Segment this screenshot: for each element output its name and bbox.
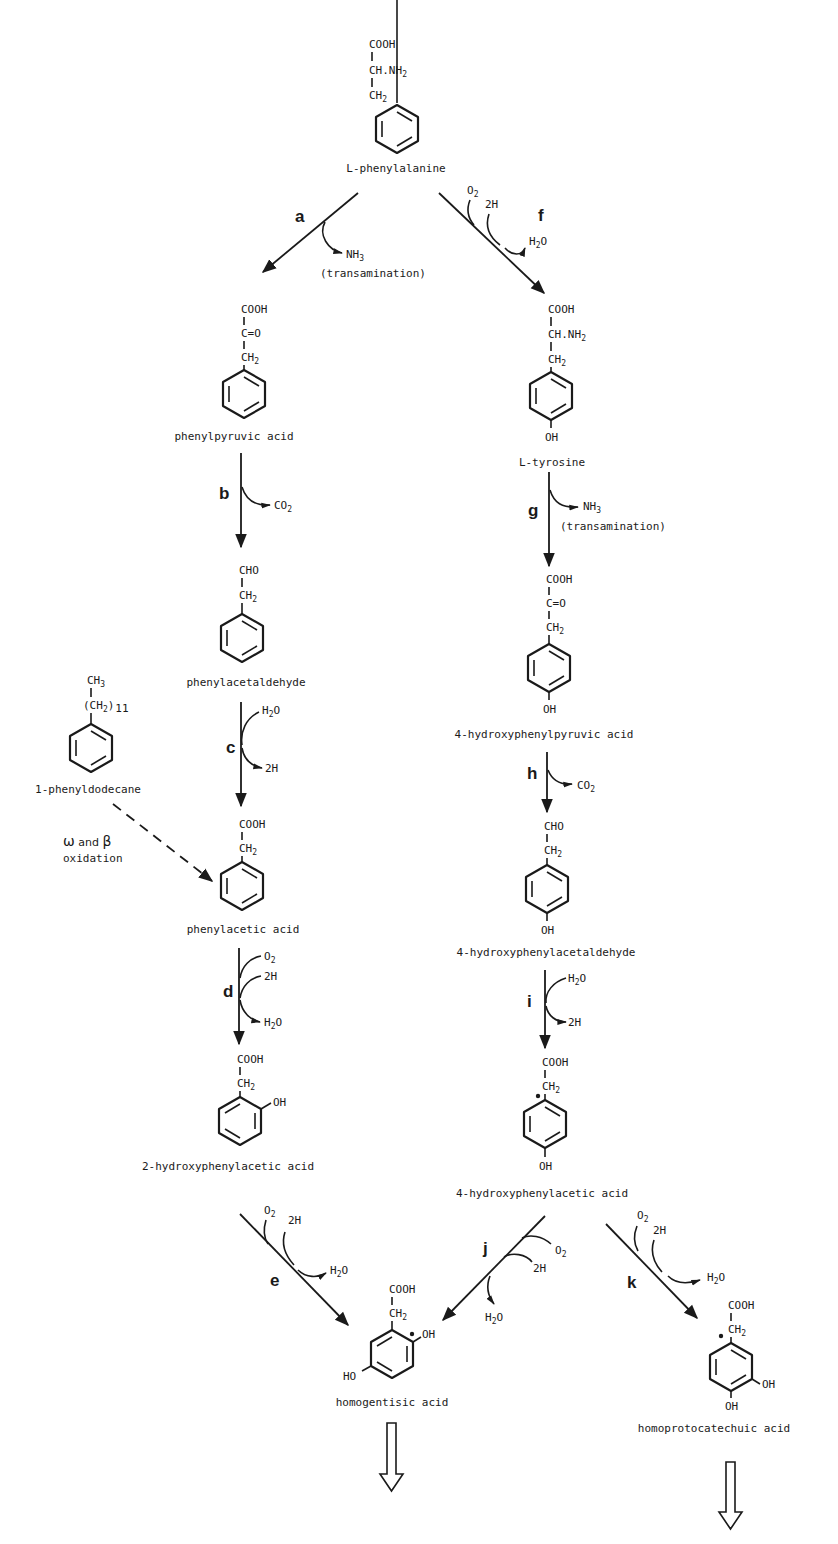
- svg-text:C=O: C=O: [546, 597, 566, 610]
- svg-text:CH2: CH2: [546, 621, 564, 636]
- svg-text:COOH: COOH: [369, 38, 396, 51]
- benzene-ring-icon: [70, 724, 112, 772]
- svg-text:OH: OH: [762, 1378, 775, 1391]
- benzene-ring-icon: [528, 644, 570, 692]
- svg-text:H2O: H2O: [262, 704, 280, 719]
- svg-text:HO: HO: [343, 1370, 356, 1383]
- svg-text:O2: O2: [555, 1244, 567, 1259]
- benzene-ring-icon: [223, 370, 265, 418]
- svg-text:OH: OH: [725, 1400, 738, 1413]
- compound-4-hydroxyphenylpyruvic-acid: COOH C=O CH2 OH 4-hydroxyphenylpyruvic a…: [455, 573, 634, 741]
- svg-text:NH3: NH3: [583, 500, 601, 515]
- svg-text:2H: 2H: [533, 1262, 546, 1275]
- svg-text:2H: 2H: [485, 198, 498, 211]
- svg-text:H2O: H2O: [485, 1311, 503, 1326]
- step-label: b: [219, 484, 229, 503]
- svg-text:COOH: COOH: [542, 1056, 569, 1069]
- svg-text:COOH: COOH: [239, 818, 266, 831]
- step-label: f: [538, 206, 544, 225]
- compound-name: phenylacetic acid: [187, 923, 300, 936]
- svg-text:H2O: H2O: [707, 1271, 725, 1286]
- svg-text:OH: OH: [543, 703, 556, 716]
- svg-text:COOH: COOH: [548, 303, 575, 316]
- svg-text:CH2: CH2: [389, 1307, 407, 1322]
- svg-text:CH2: CH2: [544, 844, 562, 859]
- svg-text:2H: 2H: [568, 1016, 581, 1029]
- reaction-step-k: O2 2H H2O k: [606, 1209, 725, 1318]
- svg-text:H2O: H2O: [529, 235, 547, 250]
- step-label: k: [627, 1273, 637, 1292]
- svg-text:C=O: C=O: [241, 327, 261, 340]
- svg-text:(transamination): (transamination): [320, 267, 426, 280]
- svg-text:CH3: CH3: [87, 674, 105, 689]
- compound-1-phenyldodecane: CH3 (CH2)11 1-phenyldodecane: [35, 674, 141, 796]
- svg-text:CH2: CH2: [548, 353, 566, 368]
- svg-text:CHO: CHO: [544, 820, 564, 833]
- svg-text:COOH: COOH: [237, 1053, 264, 1066]
- compound-4-hydroxyphenylacetic-acid: COOH CH2 OH 4-hydroxyphenylacetic acid: [456, 1056, 628, 1200]
- step-label: j: [482, 1239, 488, 1258]
- compound-phenylacetaldehyde: CHO CH2 phenylacetaldehyde: [186, 564, 305, 689]
- compound-name: homoprotocatechuic acid: [638, 1422, 790, 1435]
- svg-text:OH: OH: [541, 924, 554, 937]
- compound-phenylacetic-acid: COOH CH2 phenylacetic acid: [187, 818, 300, 936]
- svg-text:NH3: NH3: [346, 248, 364, 263]
- compound-name: 2-hydroxyphenylacetic acid: [142, 1160, 314, 1173]
- hollow-down-arrow-icon: [380, 1423, 403, 1491]
- svg-text:(transamination): (transamination): [560, 520, 666, 533]
- compound-2-hydroxyphenylacetic-acid: COOH CH2 OH 2-hydroxyphenylacetic acid: [142, 1053, 314, 1173]
- svg-text:OH: OH: [273, 1096, 286, 1109]
- svg-text:CH.NH2: CH.NH2: [369, 64, 407, 79]
- compound-name: phenylacetaldehyde: [186, 676, 305, 689]
- svg-text:COOH: COOH: [546, 573, 573, 586]
- compound-name: homogentisic acid: [336, 1396, 449, 1409]
- compound-4-hydroxyphenylacetaldehyde: CHO CH2 OH 4-hydroxyphenylacetaldehyde: [457, 820, 636, 959]
- label-dot-icon: [410, 1332, 414, 1336]
- compound-name: L-phenylalanine: [346, 162, 445, 175]
- svg-text:oxidation: oxidation: [63, 852, 123, 865]
- compound-name: phenylpyruvic acid: [174, 430, 293, 443]
- svg-text:CH2: CH2: [239, 842, 257, 857]
- svg-text:CHO: CHO: [239, 564, 259, 577]
- label-dot-icon: [719, 1334, 723, 1338]
- svg-text:OH: OH: [539, 1160, 552, 1173]
- benzene-ring-icon: [221, 862, 263, 910]
- svg-text:O2: O2: [637, 1209, 649, 1224]
- svg-text:(CH2)11: (CH2)11: [83, 699, 129, 715]
- compound-homogentisic-acid: COOH CH2 OH HO homogentisic acid: [336, 1283, 449, 1409]
- benzene-ring-icon: [376, 105, 418, 153]
- svg-text:O2: O2: [264, 1204, 276, 1219]
- svg-text:CH2: CH2: [241, 351, 259, 366]
- side-path-oxidation: ω and β oxidation: [63, 804, 212, 881]
- svg-text:2H: 2H: [288, 1214, 301, 1227]
- step-label: h: [527, 764, 537, 783]
- svg-text:ω and β: ω and β: [63, 833, 111, 849]
- reaction-step-b: b CO2: [219, 453, 292, 547]
- reaction-step-h: h CO2: [527, 752, 595, 812]
- svg-text:O2: O2: [264, 950, 276, 965]
- benzene-ring-icon: [530, 372, 572, 420]
- svg-text:H2O: H2O: [330, 1264, 348, 1279]
- compound-l-tyrosine: COOH CH.NH2 CH2 OH L-tyrosine: [519, 303, 586, 469]
- benzene-ring-icon: [371, 1330, 413, 1378]
- benzene-ring-icon: [524, 1100, 566, 1148]
- reaction-step-a: a NH3 (transamination): [263, 193, 426, 280]
- svg-text:H2O: H2O: [568, 972, 586, 987]
- svg-text:2H: 2H: [264, 970, 277, 983]
- reaction-step-g: g NH3 (transamination): [528, 472, 666, 566]
- svg-text:2H: 2H: [265, 762, 278, 775]
- svg-text:OH: OH: [545, 431, 558, 444]
- benzene-ring-icon: [221, 614, 263, 662]
- compound-l-phenylalanine: COOH CH.NH2 CH2 L-phenylalanine: [346, 0, 445, 175]
- compound-name: L-tyrosine: [519, 456, 585, 469]
- benzene-ring-icon: [526, 865, 568, 913]
- svg-text:COOH: COOH: [389, 1283, 416, 1296]
- reaction-step-d: d O2 2H H2O: [223, 948, 282, 1044]
- svg-text:CH2: CH2: [542, 1080, 560, 1095]
- svg-text:2H: 2H: [653, 1224, 666, 1237]
- compound-name: 4-hydroxyphenylpyruvic acid: [455, 728, 634, 741]
- benzene-ring-icon: [219, 1097, 261, 1145]
- step-label: c: [226, 738, 235, 757]
- step-label: e: [270, 1271, 279, 1290]
- compound-phenylpyruvic-acid: COOH C=O CH2 phenylpyruvic acid: [174, 303, 293, 443]
